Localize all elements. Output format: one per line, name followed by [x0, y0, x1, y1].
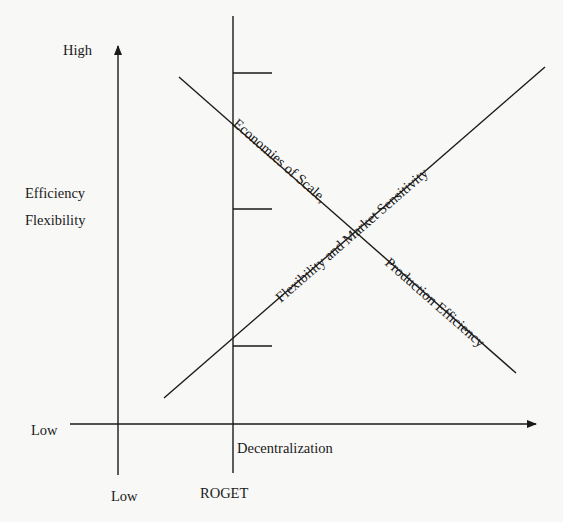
x-axis-low-label: Low [111, 489, 138, 504]
roget-label: ROGET [200, 486, 248, 501]
y-axis-high-label: High [63, 43, 92, 58]
y-axis-low-label: Low [31, 423, 58, 438]
x-axis-title: Decentralization [237, 441, 333, 456]
diagram-canvas: High Efficiency Flexibility Low Low Dece… [0, 0, 563, 522]
y-axis-title-efficiency: Efficiency [25, 186, 85, 201]
y-axis-title-flexibility: Flexibility [25, 213, 85, 228]
